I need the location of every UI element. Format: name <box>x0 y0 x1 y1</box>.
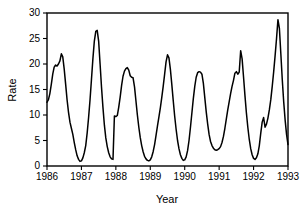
plot-area-border <box>47 13 288 166</box>
y-tick-label: 25 <box>29 33 41 44</box>
y-tick-label: 30 <box>29 7 41 18</box>
x-axis-title: Year <box>156 193 179 205</box>
data-series-line <box>47 20 288 162</box>
y-tick-label: 20 <box>29 58 41 69</box>
x-tick-label: 1988 <box>105 171 128 182</box>
y-axis-title: Rate <box>6 78 18 101</box>
y-tick-label: 0 <box>34 160 40 171</box>
x-axis-tick-labels: 19861987198819891990199119921993 <box>36 171 300 182</box>
x-tick-label: 1990 <box>174 171 197 182</box>
x-tick-label: 1989 <box>139 171 162 182</box>
y-tick-label: 10 <box>29 109 41 120</box>
x-tick-label: 1993 <box>277 171 300 182</box>
x-tick-label: 1986 <box>36 171 59 182</box>
y-tick-label: 5 <box>34 135 40 146</box>
plot-frame <box>47 13 288 166</box>
x-tick-label: 1991 <box>208 171 231 182</box>
y-axis-tick-labels: 051015202530 <box>29 7 41 171</box>
x-tick-label: 1987 <box>70 171 93 182</box>
chart-svg: 051015202530 198619871988198919901991199… <box>0 0 307 212</box>
line-chart: 051015202530 198619871988198919901991199… <box>0 0 307 212</box>
y-tick-label: 15 <box>29 84 41 95</box>
x-tick-label: 1992 <box>242 171 265 182</box>
